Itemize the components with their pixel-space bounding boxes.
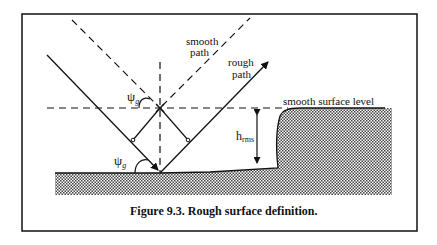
rough-reflected-path <box>160 62 268 173</box>
rough-incident-path <box>47 55 158 170</box>
rough-path-label-line2: path <box>232 68 251 80</box>
perpendicular-left <box>133 108 160 140</box>
rough-path-label-line1: rough <box>228 56 254 68</box>
smooth-surface-level-label: smooth surface level <box>283 95 374 107</box>
h-rms-label: hrms <box>236 129 254 144</box>
smooth-incident-path <box>72 20 158 106</box>
figure-caption: Figure 9.3. Rough surface definition. <box>130 204 317 218</box>
rough-surface-ground <box>55 108 392 195</box>
psi-g-lower-label: ψg <box>114 153 126 170</box>
rough-surface-diagram: smooth path rough path smooth surface le… <box>0 0 437 245</box>
right-angle-marker-left <box>131 138 135 142</box>
angle-arc-lower <box>135 160 148 173</box>
angle-arc-upper <box>139 98 150 108</box>
right-angle-marker-right <box>186 138 190 142</box>
smooth-path-label-line2: path <box>190 46 209 58</box>
psi-g-upper-label: ψg <box>127 89 139 106</box>
perpendicular-right <box>160 108 188 140</box>
